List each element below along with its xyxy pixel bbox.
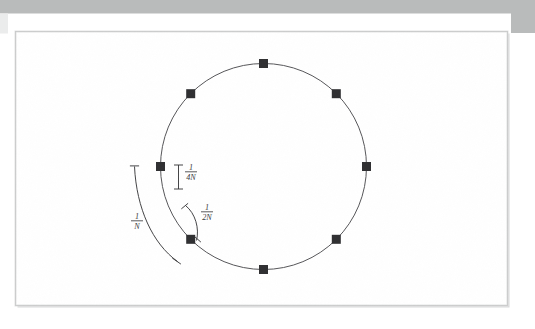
scan-grain-overlay <box>16 32 508 306</box>
figure-canvas: 14N12N1N <box>0 0 535 329</box>
